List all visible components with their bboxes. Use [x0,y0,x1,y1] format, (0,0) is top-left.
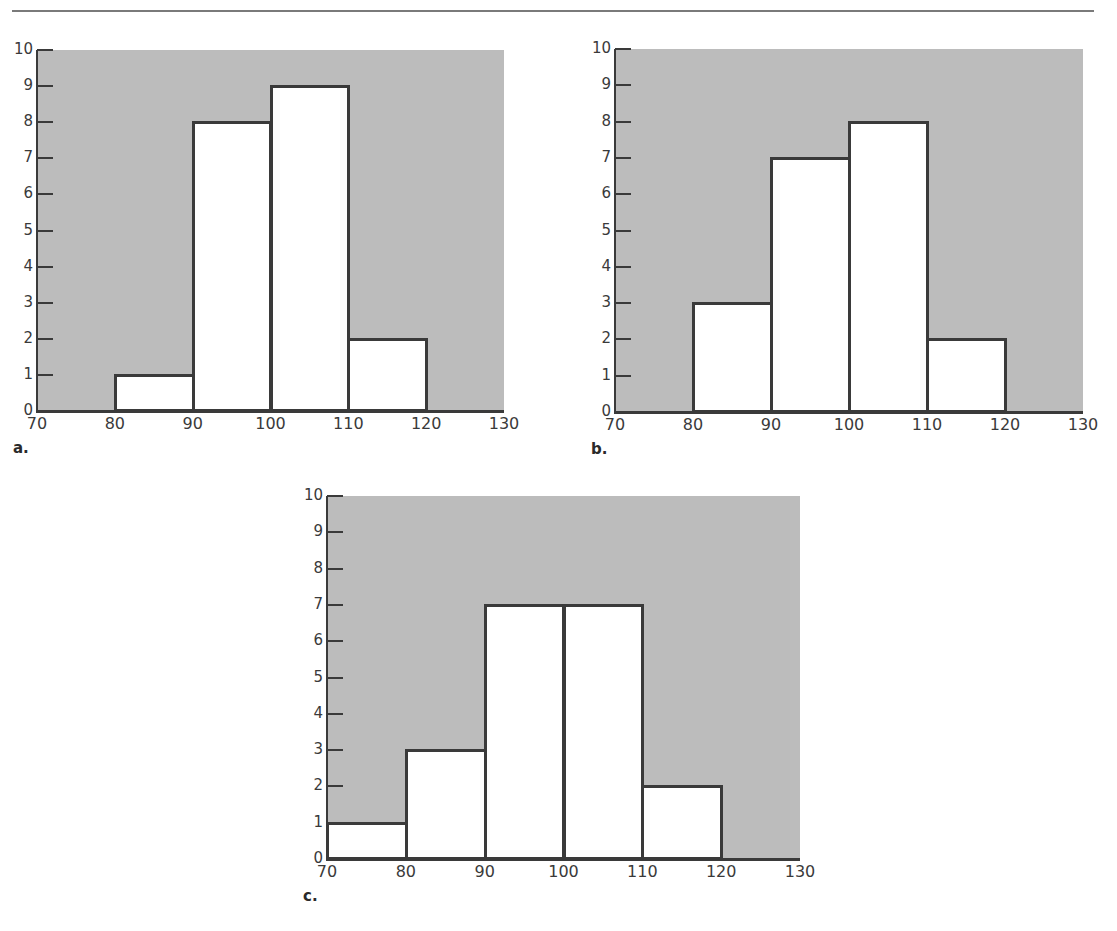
x-tick-label: 120 [401,415,451,433]
y-tick-label: 10 [293,487,323,503]
y-tick-label: 5 [581,222,611,238]
y-tick [37,157,53,159]
x-tick-label: 110 [902,416,952,434]
y-tick [327,640,343,642]
x-axis [326,858,800,861]
x-tick-label: 70 [302,863,352,881]
y-tick [327,604,343,606]
x-tick-label: 100 [824,416,874,434]
y-tick-label: 4 [581,258,611,274]
y-tick [327,822,343,824]
y-tick-label: 10 [3,41,33,57]
histogram-bar [926,338,1007,413]
y-tick [615,338,631,340]
y-tick [615,375,631,377]
y-tick-label: 1 [581,367,611,383]
x-tick-label: 90 [746,416,796,434]
y-tick-label: 5 [3,222,33,238]
y-tick [327,495,343,497]
y-tick-label: 8 [293,560,323,576]
x-tick-label: 80 [668,416,718,434]
histogram-bar [192,121,273,412]
y-tick-label: 4 [293,705,323,721]
histogram-bar [114,374,195,412]
histogram-bar [692,302,773,413]
y-axis [36,50,38,413]
y-tick-label: 6 [293,632,323,648]
y-tick-label: 3 [3,294,33,310]
y-tick [615,121,631,123]
y-tick [327,568,343,570]
y-tick-label: 3 [293,741,323,757]
x-tick-label: 120 [980,416,1030,434]
y-tick-label: 7 [293,596,323,612]
panel-label-c: c. [303,887,318,905]
y-tick [37,85,53,87]
x-tick-label: 90 [168,415,218,433]
y-tick [327,531,343,533]
y-tick [37,266,53,268]
x-tick-label: 130 [775,863,825,881]
histogram-bar [641,785,723,860]
y-tick-label: 9 [293,523,323,539]
y-tick-label: 8 [581,113,611,129]
y-tick [327,785,343,787]
x-tick-label: 120 [696,863,746,881]
y-tick-label: 10 [581,40,611,56]
x-tick-label: 130 [479,415,529,433]
x-tick-label: 90 [460,863,510,881]
x-tick-label: 80 [90,415,140,433]
y-tick [327,749,343,751]
histogram-bar [326,822,408,860]
y-tick-label: 2 [3,330,33,346]
y-tick-label: 2 [293,777,323,793]
x-tick-label: 80 [381,863,431,881]
y-tick-label: 1 [3,366,33,382]
y-tick [37,193,53,195]
x-axis [36,410,504,413]
panel-label-a: a. [13,439,29,457]
x-tick-label: 110 [323,415,373,433]
y-tick [327,677,343,679]
y-tick [615,48,631,50]
x-axis [614,411,1083,414]
y-tick [615,302,631,304]
y-tick-label: 6 [581,185,611,201]
y-tick-label: 9 [3,77,33,93]
y-tick-label: 1 [293,814,323,830]
histogram-bar [405,749,487,860]
y-axis [326,496,328,861]
y-tick [615,157,631,159]
histogram-bar [484,604,566,860]
y-tick-label: 4 [3,258,33,274]
y-tick-label: 5 [293,669,323,685]
y-tick [615,193,631,195]
histogram-bar [848,121,929,413]
y-tick-label: 2 [581,330,611,346]
x-tick-label: 70 [12,415,62,433]
y-tick [327,713,343,715]
histogram-bar [347,338,428,412]
histogram-bar [563,604,645,860]
y-tick [37,338,53,340]
y-tick-label: 6 [3,185,33,201]
y-tick-label: 8 [3,113,33,129]
y-tick [37,374,53,376]
y-tick [615,230,631,232]
x-tick-label: 130 [1058,416,1108,434]
y-tick [37,302,53,304]
y-tick-label: 9 [581,76,611,92]
y-tick [615,84,631,86]
y-tick [37,49,53,51]
y-tick-label: 7 [581,149,611,165]
x-tick-label: 100 [539,863,589,881]
histogram-bar [770,157,851,413]
y-tick [37,121,53,123]
top-rule [12,10,1094,12]
y-tick-label: 3 [581,294,611,310]
y-tick-label: 7 [3,149,33,165]
y-tick [615,266,631,268]
y-tick [37,230,53,232]
histogram-bar [270,85,351,412]
x-tick-label: 100 [246,415,296,433]
